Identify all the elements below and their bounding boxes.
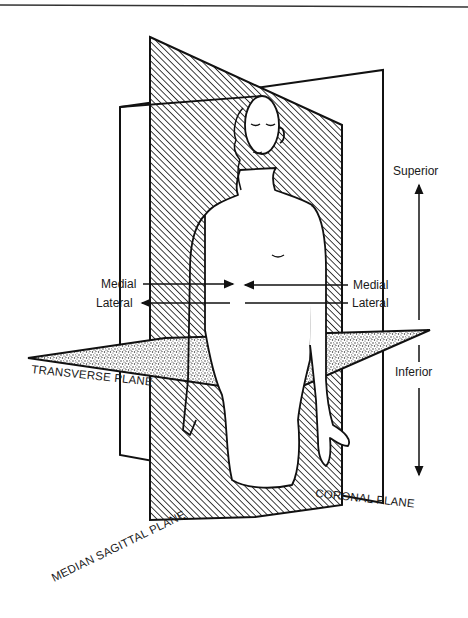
medial-right-label: Medial: [353, 278, 388, 292]
medial-left-label: Medial: [101, 277, 136, 291]
top-border-rule: [0, 5, 468, 7]
lateral-right-label: Lateral: [352, 296, 389, 310]
median-sagittal-plane-label: MEDIAN SAGITTAL PLANE: [50, 508, 188, 583]
superior-inferior-axis: Superior Inferior: [393, 164, 438, 475]
superior-label: Superior: [393, 164, 438, 178]
inferior-label: Inferior: [395, 365, 432, 379]
anatomical-planes-diagram: Superior Inferior Medial Lateral Medial …: [0, 0, 468, 618]
lateral-left-label: Lateral: [96, 296, 133, 310]
